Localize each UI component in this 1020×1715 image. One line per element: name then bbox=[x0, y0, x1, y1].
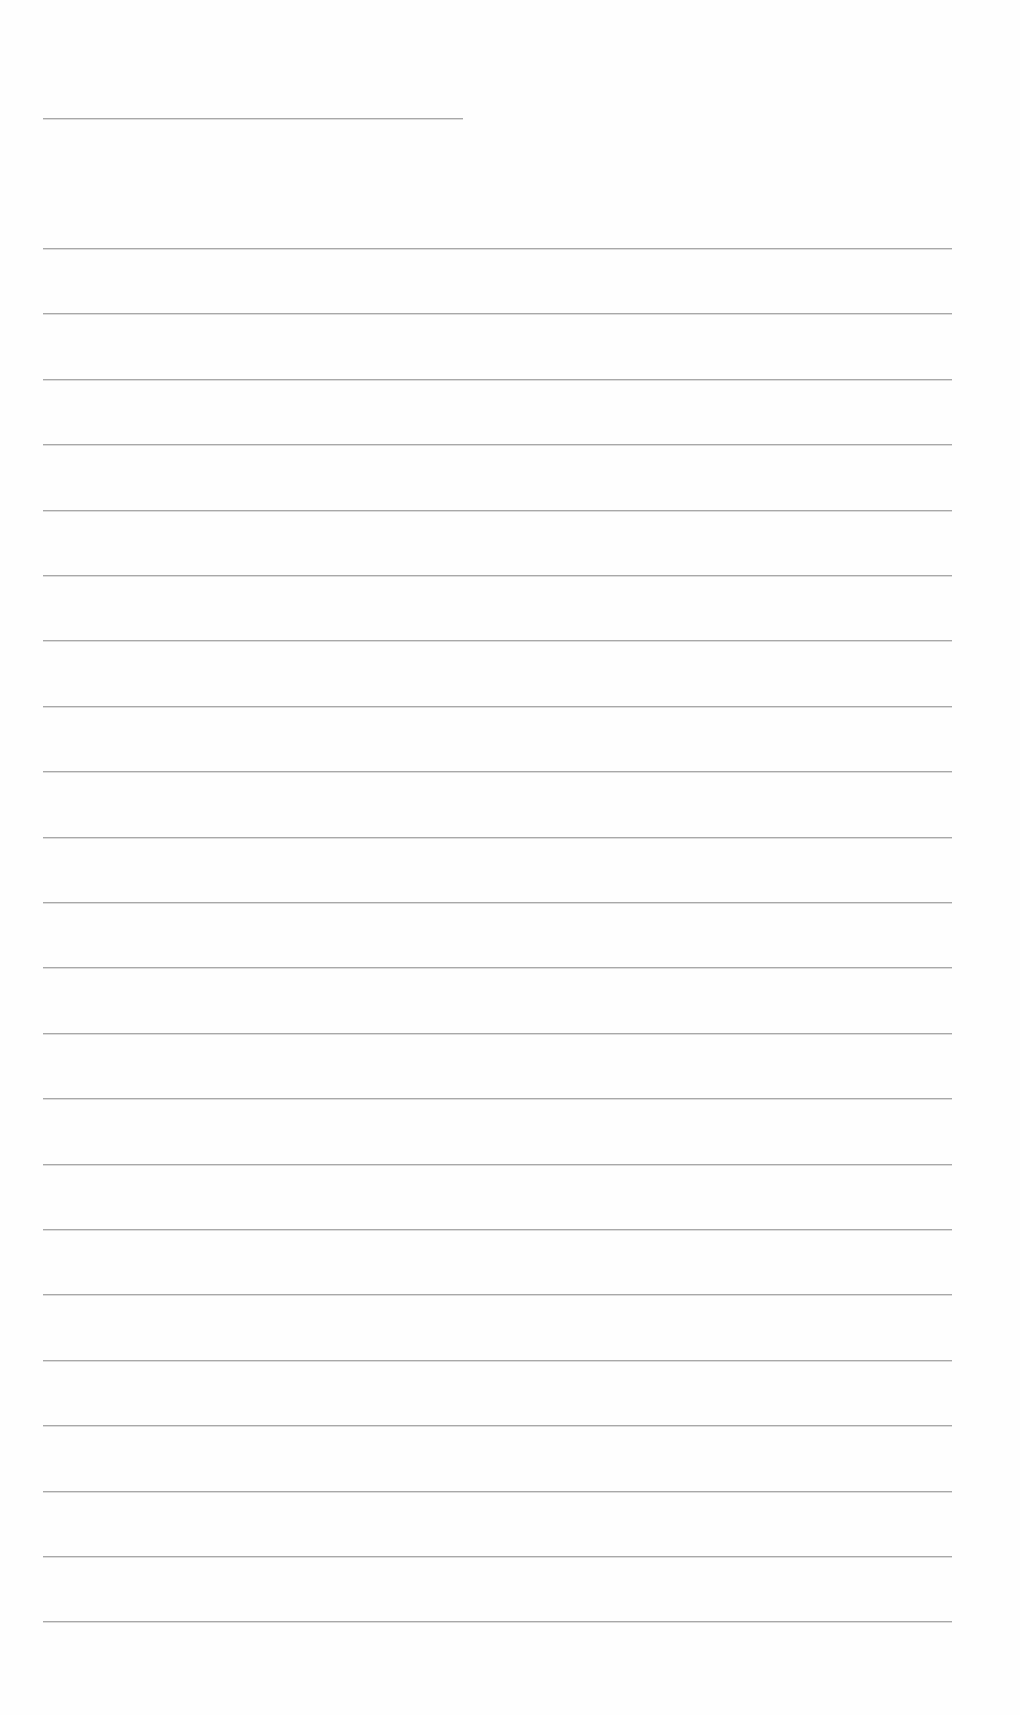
writing-line bbox=[43, 1621, 952, 1622]
writing-line bbox=[43, 510, 952, 511]
title-line bbox=[43, 118, 463, 119]
writing-line bbox=[43, 313, 952, 314]
writing-line bbox=[43, 902, 952, 903]
writing-line bbox=[43, 837, 952, 838]
writing-line bbox=[43, 1556, 952, 1557]
writing-line bbox=[43, 1294, 952, 1295]
writing-line bbox=[43, 1098, 952, 1099]
writing-line bbox=[43, 771, 952, 772]
writing-line bbox=[43, 1229, 952, 1230]
writing-line bbox=[43, 444, 952, 445]
writing-line bbox=[43, 1033, 952, 1034]
writing-line bbox=[43, 967, 952, 968]
writing-line bbox=[43, 575, 952, 576]
writing-line bbox=[43, 1360, 952, 1361]
writing-line bbox=[43, 640, 952, 641]
writing-line bbox=[43, 379, 952, 380]
lined-page bbox=[0, 0, 1020, 1715]
writing-line bbox=[43, 706, 952, 707]
writing-line bbox=[43, 1491, 952, 1492]
writing-line bbox=[43, 1425, 952, 1426]
writing-line bbox=[43, 248, 952, 249]
writing-line bbox=[43, 1164, 952, 1165]
